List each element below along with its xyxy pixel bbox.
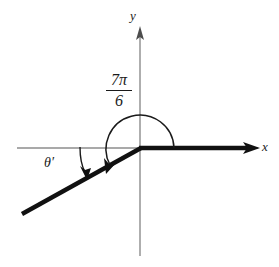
terminal-side-ray <box>22 148 141 214</box>
x-axis-label: x <box>262 140 268 153</box>
fraction-bar <box>106 90 132 91</box>
initial-side-ray <box>139 142 260 154</box>
angle-diagram: y x θ′ 7π 6 <box>0 0 279 267</box>
angle-measure-label: 7π 6 <box>98 72 140 109</box>
reference-angle-label: θ′ <box>44 156 54 170</box>
y-axis-label: y <box>130 9 136 22</box>
angle-numerator: 7π <box>98 72 140 89</box>
angle-denominator: 6 <box>98 92 140 109</box>
diagram-canvas <box>0 0 279 267</box>
coordinate-axes <box>17 26 258 256</box>
